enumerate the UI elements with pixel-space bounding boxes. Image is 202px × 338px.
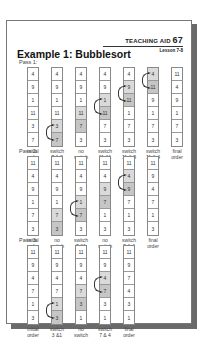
value-column: 1149713 bbox=[99, 156, 111, 236]
teaching-aid-text: TEACHING AID bbox=[125, 38, 171, 44]
value-cell: 1 bbox=[28, 196, 38, 209]
value-cell: 3 bbox=[28, 120, 38, 133]
pass-label: Pass 1: bbox=[19, 59, 37, 65]
value-cell: 11 bbox=[28, 157, 38, 170]
sort-step: 4911173switch 11 &1 bbox=[93, 67, 117, 160]
value-column: 4911173 bbox=[75, 67, 87, 147]
value-cell: 7 bbox=[124, 120, 134, 133]
value-cell: 1 bbox=[76, 311, 86, 324]
value-cell: 4 bbox=[124, 170, 134, 183]
value-cell: 7 bbox=[148, 120, 158, 133]
value-cell: 11 bbox=[28, 246, 38, 259]
step-label: initial order bbox=[27, 327, 39, 338]
value-cell: 11 bbox=[100, 246, 110, 259]
swap-arrow-icon bbox=[94, 277, 101, 292]
value-cell: 3 bbox=[124, 133, 134, 146]
value-cell: 9 bbox=[100, 81, 110, 94]
value-cell: 4 bbox=[76, 272, 86, 285]
value-cell: 4 bbox=[100, 68, 110, 81]
value-cell: 3 bbox=[28, 311, 38, 324]
value-column: 1194713 bbox=[147, 156, 159, 236]
value-cell: 1 bbox=[52, 94, 62, 107]
value-cell: 4 bbox=[148, 183, 158, 196]
sort-step: 1149713switch 9 & 4 bbox=[117, 156, 141, 249]
value-cell: 7 bbox=[52, 209, 62, 222]
sort-step: 1149713no switch bbox=[93, 156, 117, 249]
value-cell: 1 bbox=[124, 209, 134, 222]
value-cell: 1 bbox=[28, 298, 38, 311]
swap-arrow-icon bbox=[118, 86, 125, 101]
value-cell: 7 bbox=[28, 285, 38, 298]
value-column: 4911173 bbox=[123, 67, 135, 147]
value-cell: 3 bbox=[124, 222, 134, 235]
value-cell: 7 bbox=[148, 196, 158, 209]
value-column: 1149173 bbox=[171, 67, 183, 147]
sort-step: 4119173switch 11 & 4 bbox=[141, 67, 165, 160]
value-cell: 9 bbox=[148, 170, 158, 183]
value-column: 1149173 bbox=[51, 156, 63, 236]
value-cell: 3 bbox=[76, 298, 86, 311]
pass-label: Pass 2: bbox=[19, 148, 37, 154]
value-cell: 9 bbox=[52, 81, 62, 94]
value-cell: 4 bbox=[76, 170, 86, 183]
swap-arrow-icon bbox=[46, 303, 53, 318]
value-cell: 4 bbox=[28, 170, 38, 183]
value-cell: 4 bbox=[52, 272, 62, 285]
value-cell: 11 bbox=[76, 246, 86, 259]
value-cell: 3 bbox=[52, 222, 62, 235]
value-cell: 1 bbox=[100, 94, 110, 107]
value-cell: 9 bbox=[172, 94, 182, 107]
value-column: 4911137 bbox=[27, 67, 39, 147]
pass-row: 1194713initial order1194713switch 3 &111… bbox=[21, 245, 141, 338]
value-cell: 3 bbox=[148, 222, 158, 235]
sort-step: 1149173initial order bbox=[21, 156, 45, 249]
pass-label: Pass 3: bbox=[19, 237, 37, 243]
value-cell: 9 bbox=[124, 259, 134, 272]
sort-step: 1149173no switch bbox=[45, 156, 69, 249]
swap-arrow-icon bbox=[70, 201, 77, 216]
value-cell: 1 bbox=[76, 94, 86, 107]
worksheet-page: TEACHING AID 67 Lesson 7-8 Example 1: Bu… bbox=[6, 20, 192, 324]
value-cell: 3 bbox=[148, 133, 158, 146]
value-column: 1194713 bbox=[27, 245, 39, 325]
value-cell: 3 bbox=[172, 133, 182, 146]
value-column: 1149713 bbox=[123, 156, 135, 236]
value-cell: 1 bbox=[52, 196, 62, 209]
value-cell: 9 bbox=[76, 81, 86, 94]
value-cell: 1 bbox=[172, 107, 182, 120]
value-cell: 11 bbox=[76, 157, 86, 170]
value-cell: 4 bbox=[28, 272, 38, 285]
value-cell: 4 bbox=[28, 68, 38, 81]
value-cell: 3 bbox=[100, 222, 110, 235]
value-cell: 4 bbox=[124, 285, 134, 298]
swap-arrow-icon bbox=[118, 175, 125, 190]
value-cell: 3 bbox=[28, 222, 38, 235]
value-cell: 4 bbox=[76, 68, 86, 81]
value-cell: 9 bbox=[28, 81, 38, 94]
step-label: final order bbox=[147, 238, 159, 249]
value-cell: 3 bbox=[76, 133, 86, 146]
value-cell: 11 bbox=[76, 107, 86, 120]
value-cell: 1 bbox=[76, 196, 86, 209]
value-cell: 4 bbox=[172, 81, 182, 94]
value-cell: 3 bbox=[124, 298, 134, 311]
value-cell: 9 bbox=[148, 94, 158, 107]
value-cell: 9 bbox=[52, 259, 62, 272]
value-cell: 11 bbox=[148, 157, 158, 170]
value-cell: 1 bbox=[124, 311, 134, 324]
value-cell: 7 bbox=[124, 272, 134, 285]
step-label: switch 3 &1 bbox=[50, 327, 64, 338]
pass-row: 1149173initial order1149173no switch1149… bbox=[21, 156, 165, 249]
sort-step: 1194731no switch bbox=[69, 245, 93, 338]
sort-step: 1194713final order bbox=[141, 156, 165, 249]
sort-step: 4911173no switch bbox=[69, 67, 93, 160]
value-cell: 4 bbox=[100, 170, 110, 183]
value-cell: 1 bbox=[52, 298, 62, 311]
value-column: 1197431 bbox=[123, 245, 135, 325]
teaching-aid-number: 67 bbox=[173, 35, 183, 45]
sort-step: 1149173switch 7 &1 bbox=[69, 156, 93, 249]
pass-row: 4911137initial order4911137switch 7 & 34… bbox=[21, 67, 189, 160]
value-cell: 7 bbox=[124, 196, 134, 209]
value-cell: 11 bbox=[52, 157, 62, 170]
sort-step: 4911137initial order bbox=[21, 67, 45, 160]
